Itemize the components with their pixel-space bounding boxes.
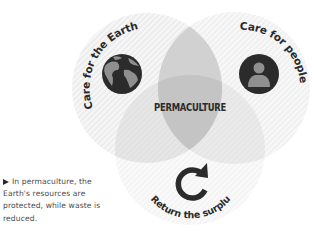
caption-text: In permaculture, the Earth's resources a… [3, 177, 100, 223]
center-label-permaculture: PERMACULTURE [154, 102, 226, 113]
person-icon [239, 54, 279, 94]
triangle-right-icon [3, 179, 9, 185]
caption: In permaculture, the Earth's resources a… [3, 176, 103, 225]
globe-icon [102, 54, 142, 94]
